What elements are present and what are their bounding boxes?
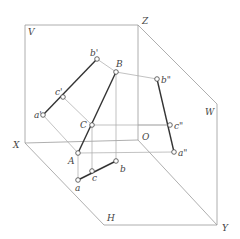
label-B: B: [115, 59, 123, 69]
point-b-w: [155, 77, 160, 82]
label-a-w: a": [178, 148, 188, 158]
point-C: [90, 123, 95, 128]
point-A: [76, 151, 81, 156]
label-c-h: c: [92, 173, 97, 183]
label-b-h: b: [120, 164, 126, 174]
label-a-h: a: [75, 183, 80, 193]
edges: [43, 59, 174, 180]
proj-B-b-w: [116, 72, 157, 79]
label-c-v: c': [55, 87, 63, 97]
label-plane-H: H: [106, 213, 115, 223]
label-plane-V: V: [28, 27, 36, 37]
labels: V W H X Y Z O A B C a' b' c' a b c a" b"…: [12, 16, 229, 233]
label-b-v: b': [90, 48, 98, 58]
point-a-w: [172, 150, 177, 155]
point-c-w: [168, 123, 173, 128]
point-a-h: [76, 178, 81, 183]
edge-a-w-b-w: [157, 79, 174, 152]
label-axis-Z: Z: [141, 16, 149, 26]
label-a-v: a': [34, 110, 42, 120]
label-A: A: [67, 156, 75, 166]
label-C: C: [80, 120, 87, 130]
label-plane-W: W: [205, 107, 215, 117]
projection-lines: [43, 59, 174, 180]
points: [41, 57, 177, 183]
proj-a-v-A: [43, 115, 78, 153]
point-B: [114, 70, 119, 75]
label-b-w: b": [161, 75, 171, 85]
point-b-h: [114, 159, 119, 164]
label-origin-O: O: [142, 132, 150, 142]
edge-a-v-b-v: [43, 59, 97, 115]
projection-diagram: V W H X Y Z O A B C a' b' c' a b c a" b"…: [0, 0, 240, 239]
h-plane-outline: [25, 143, 217, 225]
label-axis-Y: Y: [222, 223, 229, 233]
proj-c-v-C: [63, 97, 92, 125]
label-c-w: c": [174, 121, 183, 131]
x-axis: [25, 140, 138, 143]
proj-A-a-w: [78, 152, 174, 153]
proj-b-v-B: [97, 59, 116, 72]
label-axis-X: X: [12, 140, 20, 150]
